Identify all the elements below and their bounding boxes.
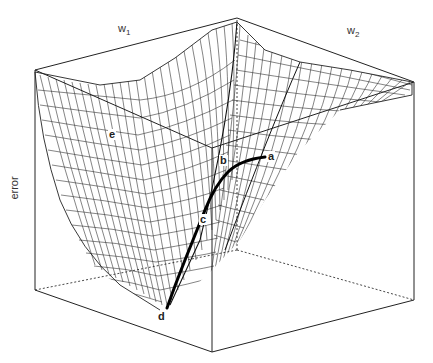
axis-label-w2-sub: 2 [355,30,359,39]
point-label-b: b [219,155,228,166]
axis-label-w1-sub: 1 [126,28,130,37]
axis-label-w2: w2 [347,24,359,39]
axis-label-w1-text: w [118,22,126,34]
error-surface-figure [0,0,433,363]
point-label-d: d [157,311,166,322]
axis-label-w2-text: w [347,24,355,36]
point-label-a: a [267,151,275,162]
point-label-c: c [199,214,207,225]
axis-label-w1: w1 [118,22,130,37]
axis-label-error: error [8,176,20,199]
point-label-e: e [108,129,116,140]
